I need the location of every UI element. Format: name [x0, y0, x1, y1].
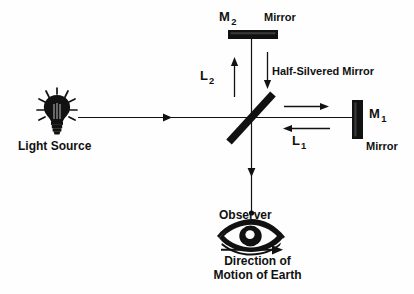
label-observer: Observer: [219, 209, 272, 223]
label-mirror-m1-letter: M: [369, 106, 380, 121]
mirror-m1-icon: [352, 100, 363, 139]
label-direction-line1: Direction of: [224, 254, 291, 268]
label-arm-length-l2-letter: L: [200, 68, 208, 83]
label-mirror-m2-caption: Mirror: [264, 11, 296, 24]
interferometer-diagram: M2 Mirror M1 Mirror Half-Silvered Mirror…: [0, 0, 414, 294]
l1-right-arrow-icon: [284, 103, 329, 110]
label-arm-length-l2: L2: [200, 69, 214, 86]
l1-left-arrow-icon: [283, 125, 330, 132]
source-beam-ray: [78, 114, 251, 122]
label-arm-length-l1-subscript: 1: [300, 141, 306, 151]
label-arm-length-l2-subscript: 2: [208, 76, 214, 86]
label-mirror-m1: M1: [369, 107, 387, 124]
label-mirror-m2: M2: [219, 10, 237, 27]
label-arm-length-l1: L1: [292, 134, 306, 151]
mirror-m2-icon: [228, 30, 278, 39]
label-mirror-m1-subscript: 1: [380, 114, 387, 124]
label-direction-line2: Motion of Earth: [190, 269, 325, 283]
l2-up-arrow-icon: [231, 57, 238, 97]
light-bulb-icon: [37, 88, 77, 134]
label-mirror-m1-caption: Mirror: [366, 140, 398, 153]
label-arm-length-l1-letter: L: [292, 133, 300, 148]
label-light-source: Light Source: [18, 140, 91, 154]
label-half-silvered-mirror: Half-Silvered Mirror: [272, 65, 374, 78]
label-mirror-m2-subscript: 2: [230, 17, 237, 27]
label-mirror-m2-letter: M: [219, 9, 230, 24]
observer-beam-ray: [248, 118, 256, 216]
l2-down-arrow-icon: [264, 52, 271, 89]
label-direction-of-motion: Direction of Motion of Earth: [190, 255, 325, 283]
